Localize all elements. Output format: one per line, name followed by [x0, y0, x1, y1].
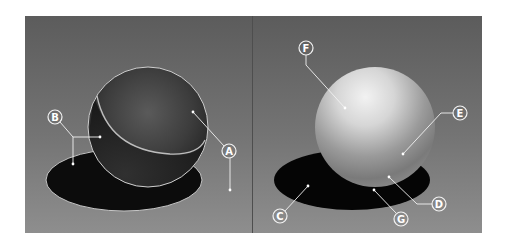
callout-b-label: B [51, 112, 59, 123]
callout-a-label: A [225, 146, 233, 157]
callout-b-dot-shadow [72, 163, 75, 166]
light-sphere [315, 67, 435, 187]
callout-g-label: G [397, 214, 405, 225]
left-panel: B A [25, 16, 252, 233]
callout-c-dot [307, 185, 310, 188]
callout-a-dot-sphere [192, 111, 195, 114]
callout-e-label: E [457, 108, 464, 119]
right-panel: F E D G C [253, 16, 482, 233]
callout-f-dot [344, 107, 347, 110]
callout-f-label: F [303, 43, 310, 54]
callout-a-dot-background [229, 189, 232, 192]
callout-e-dot [402, 153, 405, 156]
callout-d-label: D [435, 199, 443, 210]
sphere-lighting-diagram: B A F E [0, 0, 505, 246]
callout-c-label: C [276, 211, 283, 222]
callout-d-dot [388, 176, 391, 179]
callout-g-dot [373, 189, 376, 192]
callout-b-dot-sphere [99, 136, 102, 139]
